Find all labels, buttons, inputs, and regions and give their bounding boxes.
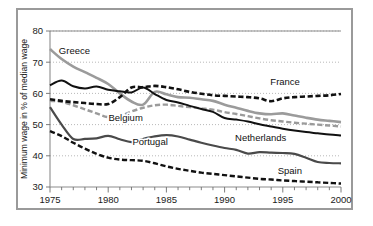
series-label-portugal: Portugal — [132, 136, 167, 147]
y-axis-title-text: Minimum wage in % of median wage — [19, 39, 29, 179]
data-series — [50, 49, 341, 183]
series-label-france: France — [270, 76, 300, 87]
x-tick-label-1975: 1975 — [39, 194, 60, 205]
series-line-netherlands — [50, 81, 341, 136]
series-line-france — [50, 86, 341, 105]
x-tick-label-1995: 1995 — [272, 194, 293, 205]
y-axis-tick-labels: 304050607080 — [32, 25, 43, 192]
series-labels: GreeceGreeceNetherlandsNetherlandsFrance… — [59, 45, 302, 176]
x-tick-label-2000: 2000 — [330, 194, 351, 205]
x-tick-label-1980: 1980 — [98, 194, 119, 205]
series-label-belgium: Belgium — [108, 112, 142, 123]
x-axis-tick-labels: 197519801985199019952000 — [39, 194, 351, 205]
axes — [50, 31, 341, 187]
y-tick-label-60: 60 — [32, 88, 43, 99]
y-axis-title: Minimum wage in % of median wage — [19, 39, 29, 179]
x-tick-label-1990: 1990 — [214, 194, 235, 205]
y-tick-label-70: 70 — [32, 57, 43, 68]
chart-container: 197519801985199019952000 304050607080 Gr… — [0, 0, 373, 226]
y-tick-label-80: 80 — [32, 25, 43, 36]
series-label-spain: Spain — [278, 165, 302, 176]
x-tick-label-1985: 1985 — [156, 194, 177, 205]
line-chart: 197519801985199019952000 304050607080 Gr… — [0, 0, 373, 226]
y-tick-label-30: 30 — [32, 181, 43, 192]
y-tick-label-40: 40 — [32, 150, 43, 161]
series-label-netherlands: Netherlands — [235, 132, 286, 143]
series-label-greece: Greece — [59, 45, 90, 56]
y-tick-label-50: 50 — [32, 119, 43, 130]
